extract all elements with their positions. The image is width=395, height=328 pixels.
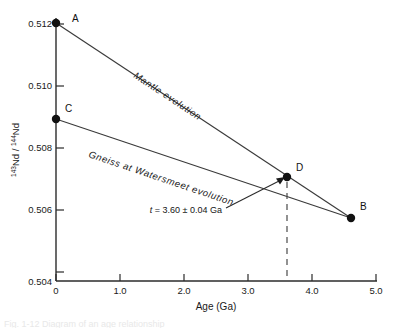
x-tick-label-5: 5.0 — [369, 285, 382, 296]
figure-caption: Fig. 1-12 Diagram of an age relationship — [0, 320, 395, 328]
data-point-label-B: B — [360, 201, 367, 212]
y-tick-label-0506: 0.506 — [28, 204, 52, 215]
x-axis-tick-labels: 0 1.0 2.0 3.0 4.0 5.0 — [53, 285, 382, 296]
gneiss-evolution-line — [56, 119, 351, 218]
y-tick-label-0504: 0.504 — [28, 276, 52, 287]
y-tick-label-0512: 0.512 — [28, 18, 52, 29]
svg-text:143Nd / 144Nd: 143Nd / 144Nd — [10, 123, 22, 177]
age-annotation-arrow-shaft — [226, 180, 281, 208]
y-axis-title-tail: Nd — [10, 123, 21, 135]
mantle-evolution-label-text: Mantle evolution — [132, 69, 204, 122]
x-axis-ticks — [56, 274, 376, 281]
x-axis-title: Age (Ga) — [196, 301, 237, 312]
age-annotation-text: t = 3.60 ± 0.04 Ga — [150, 205, 222, 215]
x-tick-label-0: 0 — [53, 285, 58, 296]
gneiss-evolution-label-text: Gneiss at Watersmeet evolution — [87, 148, 235, 207]
x-tick-label-4: 4.0 — [305, 285, 318, 296]
y-tick-label-0508: 0.508 — [28, 142, 52, 153]
data-point-D[interactable] — [283, 173, 291, 181]
x-tick-label-1: 1.0 — [113, 285, 126, 296]
y-axis-tick-labels: 0.512 0.510 0.508 0.506 0.504 — [28, 18, 52, 287]
mantle-evolution-label: Mantle evolution — [132, 69, 204, 122]
figure-caption-text: Fig. 1-12 Diagram of an age relationship — [0, 320, 395, 328]
data-point-label-D: D — [296, 162, 303, 173]
axes — [56, 18, 377, 281]
data-point-A[interactable] — [52, 19, 60, 27]
data-point-C[interactable] — [52, 115, 60, 123]
data-point-label-A: A — [72, 13, 79, 24]
y-axis-title: 143Nd / 144Nd — [10, 123, 22, 177]
age-annotation-value: = 3.60 ± 0.04 Ga — [152, 205, 222, 215]
y-tick-label-0510: 0.510 — [28, 80, 52, 91]
data-point-labels: A C D B — [65, 13, 367, 212]
x-tick-label-2: 2.0 — [177, 285, 190, 296]
gneiss-evolution-label: Gneiss at Watersmeet evolution — [87, 148, 235, 207]
y-axis-title-sup-143: 143 — [10, 166, 17, 177]
y-axis-ticks — [56, 24, 64, 272]
isotope-evolution-chart: 0.512 0.510 0.508 0.506 0.504 0 1.0 2.0 … — [0, 0, 395, 328]
data-point-B[interactable] — [347, 214, 355, 222]
y-axis-title-mid: Nd / — [10, 146, 21, 166]
x-tick-label-3: 3.0 — [241, 285, 254, 296]
figure-container: 0.512 0.510 0.508 0.506 0.504 0 1.0 2.0 … — [0, 0, 395, 328]
data-point-label-C: C — [65, 103, 72, 114]
y-axis-title-sup-144: 144 — [10, 135, 17, 146]
